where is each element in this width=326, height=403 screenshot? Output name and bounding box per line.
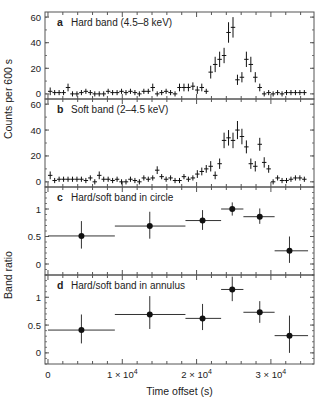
panel-letter: d [57,279,63,291]
y-tick-label: 1 [36,292,41,303]
data-point [286,248,292,254]
panel-title: Hard/soft band in annulus [71,280,185,291]
panel-letter: c [57,191,63,203]
x-tick-label: 3 × 104 [256,368,287,380]
data-point [257,214,263,220]
x-tick-label: 1 × 104 [107,368,138,380]
panel-b: 0204060bSoft band (2–4.5 keV) [30,99,314,188]
panel-a: 0204060aHard band (4.5–8 keV) [30,12,314,100]
panel-d: 00.51dHard/soft band in annulus [28,275,314,364]
panel-c: 00.51cHard/soft band in circle [28,187,314,275]
data-point [229,286,235,292]
panel-title: Soft band (2–4.5 keV) [71,104,168,115]
y-tick-label: 0 [36,176,41,187]
y-tick-label: 0 [36,259,41,270]
x-tick-label: 0 [45,369,50,380]
panel-title: Hard band (4.5–8 keV) [71,17,172,28]
y-tick-label: 40 [30,37,41,48]
data-point [147,311,153,317]
y-tick-label: 0 [36,347,41,358]
y-tick-label: 1 [36,204,41,215]
y-tick-label: 20 [30,63,41,74]
counts-y-axis-title: Counts per 600 s [2,59,14,139]
x-axis-title: Time offset (s) [146,385,213,397]
x-tick-label: 2 × 104 [181,368,212,380]
panel-letter: a [57,16,63,28]
y-tick-label: 20 [30,150,41,161]
y-tick-label: 0.5 [28,231,41,242]
data-point [200,315,206,321]
data-point [78,233,84,239]
panel-title: Hard/soft band in circle [71,192,174,203]
data-point [78,327,84,333]
y-tick-label: 60 [30,12,41,23]
y-tick-label: 40 [30,125,41,136]
data-point [229,206,235,212]
data-point [286,333,292,339]
panel-letter: b [57,103,63,115]
y-tick-label: 60 [30,99,41,110]
data-point [257,309,263,315]
data-point [147,223,153,229]
y-tick-label: 0.5 [28,320,41,331]
data-point [200,218,206,224]
figure: 0204060aHard band (4.5–8 keV)0204060bSof… [0,0,326,403]
ratio-y-axis-title: Band ratio [2,251,14,299]
